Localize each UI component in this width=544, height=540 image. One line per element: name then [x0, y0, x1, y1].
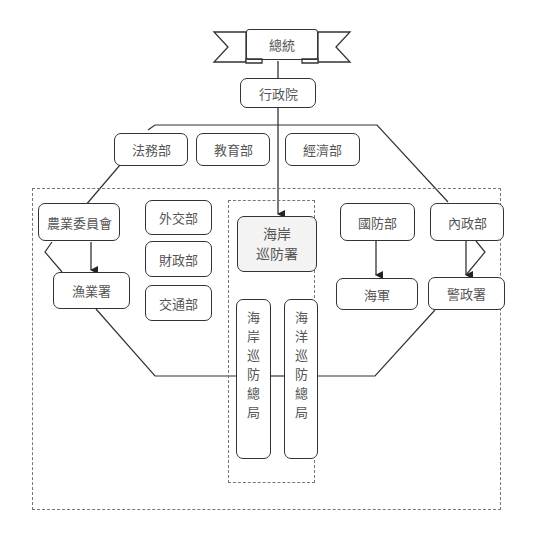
- ministry-defense-node: 國防部: [340, 203, 415, 241]
- agriculture-council-node: 農業委員會: [38, 203, 120, 241]
- ministry-economic-node: 經濟部: [285, 133, 360, 166]
- ministry-foreign-node: 外交部: [145, 200, 212, 235]
- coastal-patrol-node: 海 岸 巡 防 總 局: [236, 299, 271, 459]
- ministry-education-node: 教育部: [196, 133, 270, 166]
- executive-yuan-node: 行政院: [240, 78, 316, 108]
- ministry-transport-node: 交通部: [145, 285, 212, 321]
- ministry-finance-node: 財政部: [145, 241, 212, 277]
- police-agency-node: 警政署: [428, 277, 505, 310]
- president-label: 總統: [269, 35, 295, 54]
- navy-node: 海軍: [336, 278, 418, 310]
- ministry-justice-node: 法務部: [114, 133, 188, 166]
- maritime-patrol-node: 海 洋 巡 防 總 局: [284, 299, 318, 459]
- fisheries-agency-node: 漁業署: [53, 272, 130, 309]
- president-banner: 總統: [246, 29, 318, 60]
- ministry-interior-node: 內政部: [430, 203, 504, 241]
- coast-guard-admin-node: 海岸 巡防署: [237, 216, 317, 272]
